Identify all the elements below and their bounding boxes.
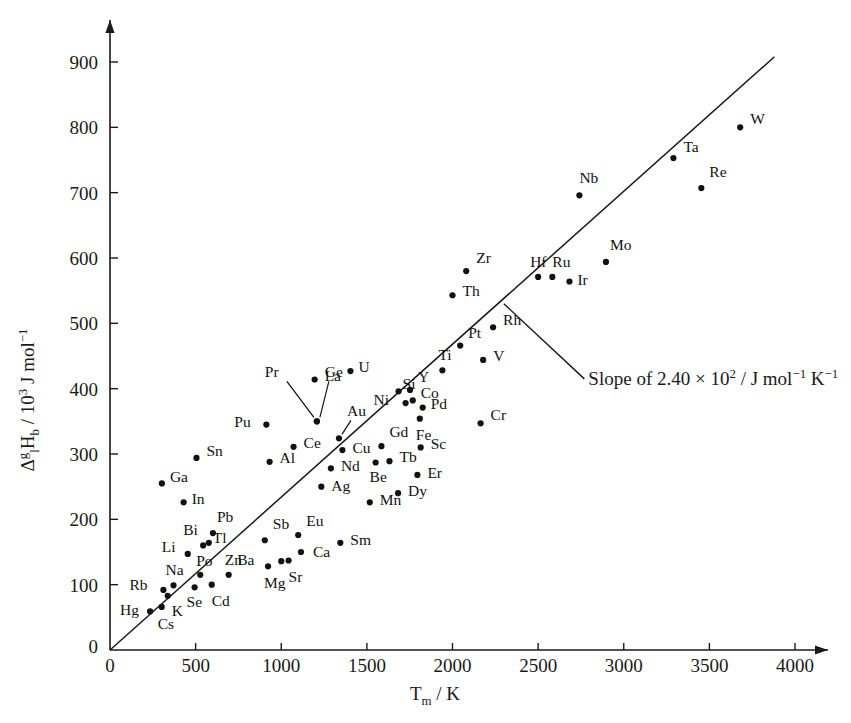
data-point[interactable]: Rb xyxy=(129,576,166,593)
data-point-marker[interactable] xyxy=(159,480,165,486)
data-point-marker[interactable] xyxy=(457,342,463,348)
data-point-marker[interactable] xyxy=(373,459,379,465)
data-point[interactable]: Cr xyxy=(477,406,506,426)
data-point[interactable]: Mo xyxy=(603,236,632,265)
data-point[interactable]: Be xyxy=(370,459,387,485)
data-point-marker[interactable] xyxy=(737,124,743,130)
data-point[interactable]: Fe xyxy=(416,416,432,443)
data-point-marker[interactable] xyxy=(170,582,176,588)
data-point-marker[interactable] xyxy=(262,537,268,543)
data-point-marker[interactable] xyxy=(395,388,401,394)
data-point[interactable]: Nd xyxy=(328,457,360,474)
data-point[interactable]: Ge xyxy=(314,363,343,424)
data-point-marker[interactable] xyxy=(147,608,153,614)
data-point[interactable]: Sr xyxy=(286,557,304,585)
data-point[interactable]: W xyxy=(737,110,765,130)
data-point-marker[interactable] xyxy=(197,572,203,578)
data-point-marker[interactable] xyxy=(566,278,572,284)
data-point[interactable]: Al xyxy=(267,449,296,466)
data-point-marker[interactable] xyxy=(480,357,486,363)
data-point-marker[interactable] xyxy=(278,558,284,564)
data-point[interactable]: U xyxy=(347,358,369,375)
data-point[interactable]: V xyxy=(480,347,505,364)
data-point-marker[interactable] xyxy=(670,155,676,161)
data-point[interactable]: Si xyxy=(395,375,416,394)
data-point[interactable]: Sn xyxy=(193,442,223,461)
data-point-marker[interactable] xyxy=(286,557,292,563)
data-point[interactable]: Tb xyxy=(386,448,417,465)
data-point-marker[interactable] xyxy=(386,458,392,464)
data-point-marker[interactable] xyxy=(367,499,373,505)
data-point[interactable]: Mg xyxy=(264,563,286,591)
data-point-marker[interactable] xyxy=(603,259,609,265)
data-point-marker[interactable] xyxy=(226,572,232,578)
data-point[interactable]: Ca xyxy=(298,543,330,560)
data-point-marker[interactable] xyxy=(347,368,353,374)
data-point[interactable]: Gd xyxy=(378,423,408,449)
data-point-marker[interactable] xyxy=(185,551,191,557)
data-point-marker[interactable] xyxy=(206,540,212,546)
data-point[interactable]: Re xyxy=(698,163,726,191)
data-point[interactable]: Bi xyxy=(183,521,206,548)
data-point[interactable]: Ba xyxy=(237,551,284,568)
data-point-marker[interactable] xyxy=(209,582,215,588)
data-point-marker[interactable] xyxy=(290,444,296,450)
data-point-marker[interactable] xyxy=(193,455,199,461)
data-point-marker[interactable] xyxy=(165,593,171,599)
data-point-marker[interactable] xyxy=(312,376,318,382)
data-point[interactable]: Er xyxy=(414,464,443,481)
data-point[interactable]: Eu xyxy=(295,512,324,538)
data-point[interactable]: Cd xyxy=(209,582,230,609)
data-point-marker[interactable] xyxy=(402,400,408,406)
data-point-marker[interactable] xyxy=(336,435,342,441)
data-point[interactable]: Se xyxy=(187,584,203,610)
data-point-marker[interactable] xyxy=(160,587,166,593)
data-point-marker[interactable] xyxy=(328,465,334,471)
data-point-marker[interactable] xyxy=(477,420,483,426)
data-point-marker[interactable] xyxy=(418,444,424,450)
data-point[interactable]: Nb xyxy=(576,169,598,198)
data-point[interactable]: Ga xyxy=(159,468,188,486)
data-point[interactable]: Ir xyxy=(566,271,588,288)
data-point-marker[interactable] xyxy=(576,192,582,198)
data-point-marker[interactable] xyxy=(378,443,384,449)
data-point-marker[interactable] xyxy=(210,530,216,536)
data-point-marker[interactable] xyxy=(263,422,269,428)
data-point-marker[interactable] xyxy=(420,405,426,411)
data-point-marker[interactable] xyxy=(200,542,206,548)
data-point-marker[interactable] xyxy=(181,499,187,505)
data-point-marker[interactable] xyxy=(414,472,420,478)
data-point-marker[interactable] xyxy=(191,584,197,590)
data-point[interactable]: Pu xyxy=(234,413,269,430)
data-point-marker[interactable] xyxy=(698,185,704,191)
data-point[interactable]: Po xyxy=(196,552,213,578)
data-point-marker[interactable] xyxy=(339,447,345,453)
data-point-marker[interactable] xyxy=(337,540,343,546)
data-point-marker[interactable] xyxy=(449,292,455,298)
data-point[interactable]: In xyxy=(181,490,205,507)
data-point-marker[interactable] xyxy=(298,549,304,555)
data-point[interactable]: Na xyxy=(166,561,184,588)
data-point[interactable]: Pr xyxy=(265,363,320,424)
data-point[interactable]: Ti xyxy=(438,346,452,373)
data-point-marker[interactable] xyxy=(265,563,271,569)
data-point-marker[interactable] xyxy=(318,484,324,490)
data-point-marker[interactable] xyxy=(410,397,416,403)
data-point-marker[interactable] xyxy=(295,532,301,538)
data-point-marker[interactable] xyxy=(439,367,445,373)
data-point[interactable]: Tl xyxy=(206,529,227,546)
data-point[interactable]: Sm xyxy=(337,531,371,548)
data-point[interactable]: Th xyxy=(449,282,480,299)
data-point[interactable]: Ag xyxy=(318,477,350,494)
data-point-marker[interactable] xyxy=(535,274,541,280)
data-point-marker[interactable] xyxy=(417,416,423,422)
data-point-marker[interactable] xyxy=(395,490,401,496)
data-point-marker[interactable] xyxy=(407,387,413,393)
data-point[interactable]: Rh xyxy=(490,311,521,330)
data-point[interactable]: Ce xyxy=(290,434,320,451)
data-point-marker[interactable] xyxy=(463,268,469,274)
data-point-marker[interactable] xyxy=(159,604,165,610)
data-point[interactable]: Ta xyxy=(670,138,698,161)
data-point[interactable]: Ru xyxy=(549,253,570,280)
data-point[interactable]: Hf xyxy=(530,253,547,280)
